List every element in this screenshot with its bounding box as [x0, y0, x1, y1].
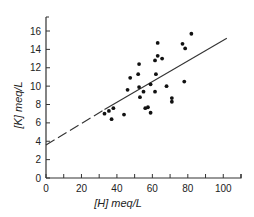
y-tick-label: 12	[30, 62, 42, 73]
x-axis	[46, 174, 241, 178]
data-point	[126, 88, 130, 92]
y-tick-label: 2	[35, 154, 41, 165]
data-points	[103, 32, 194, 121]
data-point	[154, 72, 158, 76]
ticks: 0246810121416020406080100	[30, 26, 241, 195]
data-point	[153, 90, 157, 94]
x-tick-label: 80	[182, 183, 194, 194]
data-point	[170, 100, 174, 104]
data-point	[182, 80, 186, 84]
x-tick-label: 60	[147, 183, 159, 194]
y-tick-label: 10	[30, 81, 42, 92]
data-point	[149, 111, 153, 115]
axes	[46, 17, 241, 178]
data-point	[136, 72, 140, 76]
data-point	[137, 85, 141, 89]
data-point	[165, 84, 169, 88]
data-point	[110, 117, 114, 121]
data-point	[122, 113, 126, 117]
y-axis	[46, 17, 49, 178]
y-tick-label: 6	[35, 117, 41, 128]
data-point	[189, 32, 193, 36]
y-tick-label: 4	[35, 136, 41, 147]
data-point	[160, 57, 164, 61]
data-point	[111, 106, 115, 110]
x-tick-label: 40	[111, 183, 123, 194]
data-point	[153, 59, 157, 63]
data-point	[183, 47, 187, 51]
y-tick-label: 14	[30, 44, 42, 55]
data-point	[128, 76, 132, 80]
data-point	[170, 96, 174, 100]
y-tick-label: 16	[30, 26, 42, 37]
data-point	[146, 105, 150, 109]
x-tick-label: 100	[215, 183, 232, 194]
data-point	[181, 42, 185, 46]
x-tick-label: 20	[76, 183, 88, 194]
data-point	[107, 109, 111, 113]
fit-line-dashed	[46, 110, 105, 145]
scatter-chart: 0246810121416020406080100 [K] meq/L [H] …	[0, 0, 254, 217]
y-tick-label: 8	[35, 99, 41, 110]
data-point	[138, 95, 142, 99]
x-axis-title: [H] meq/L	[93, 197, 142, 209]
data-point	[156, 41, 160, 45]
regression-line	[46, 38, 227, 145]
data-point	[149, 82, 153, 86]
x-tick-label: 0	[43, 183, 49, 194]
data-point	[156, 54, 160, 58]
y-tick-label: 0	[35, 173, 41, 184]
data-point	[137, 62, 141, 66]
data-point	[103, 112, 107, 116]
fit-line-solid	[105, 38, 227, 109]
y-axis-title: [K] meq/L	[12, 81, 24, 129]
data-point	[142, 90, 146, 94]
